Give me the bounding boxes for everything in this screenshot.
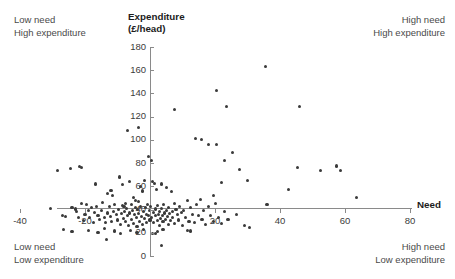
data-point (225, 105, 228, 108)
data-point (80, 202, 83, 205)
data-point (160, 207, 163, 210)
data-point (69, 167, 72, 170)
data-point (223, 210, 226, 213)
data-point (103, 227, 106, 230)
data-point (147, 155, 150, 158)
y-axis-tick (150, 117, 154, 118)
data-point (243, 224, 246, 227)
data-point (95, 205, 98, 208)
data-point (126, 214, 129, 217)
x-axis-tick (345, 209, 346, 213)
x-axis-tick-label: 20 (200, 215, 230, 226)
data-point (265, 203, 268, 206)
data-point (167, 206, 170, 209)
data-point (191, 213, 194, 216)
data-point (155, 188, 158, 191)
y-axis-tick (150, 163, 154, 164)
y-axis-tick-label: 120 (120, 110, 146, 121)
data-point (207, 205, 210, 208)
data-point (150, 159, 153, 162)
x-axis-tick (215, 209, 216, 213)
y-axis-tick (150, 47, 154, 48)
data-point (109, 215, 112, 218)
data-point (167, 223, 170, 226)
data-point (298, 105, 301, 108)
data-point (75, 210, 78, 213)
data-point (85, 203, 88, 206)
data-point (178, 205, 181, 208)
y-axis-tick-label: 60 (120, 180, 146, 191)
data-point (126, 129, 129, 132)
data-point (296, 166, 299, 169)
data-point (103, 216, 106, 219)
x-axis-tick-label: 80 (395, 215, 425, 226)
data-point (166, 215, 169, 218)
data-point (160, 182, 163, 185)
data-point (184, 216, 187, 219)
data-point (111, 194, 114, 197)
data-point (149, 205, 152, 208)
data-point (355, 196, 358, 199)
data-point (116, 218, 119, 221)
data-point (171, 210, 174, 213)
data-point (132, 222, 135, 225)
data-point (202, 209, 205, 212)
data-point (186, 199, 189, 202)
data-point (173, 222, 176, 225)
data-point (135, 216, 138, 219)
data-point (115, 213, 118, 216)
data-point (162, 203, 165, 206)
x-axis-tick-label: -40 (5, 215, 35, 226)
data-point (62, 228, 65, 231)
data-point (130, 218, 133, 221)
data-point (137, 126, 140, 129)
y-axis-tick (150, 140, 154, 141)
data-point (94, 182, 97, 185)
data-point (80, 166, 83, 169)
data-point (173, 202, 176, 205)
y-axis-tick-label: 40 (120, 203, 146, 214)
data-point (70, 230, 73, 233)
data-point (174, 208, 177, 211)
data-point (157, 213, 160, 216)
data-point (110, 220, 113, 223)
data-point (170, 190, 173, 193)
data-point (173, 108, 176, 111)
data-point (154, 207, 157, 210)
y-axis-tick (150, 256, 154, 257)
data-point (106, 192, 109, 195)
data-point (246, 179, 249, 182)
y-axis-tick-label: 180 (120, 41, 146, 52)
data-point (195, 203, 198, 206)
data-point (160, 244, 163, 247)
data-point (187, 220, 190, 223)
data-point (189, 229, 192, 232)
data-point (215, 89, 218, 92)
data-point (56, 169, 59, 172)
y-axis-tick (150, 186, 154, 187)
data-point (199, 198, 202, 201)
data-point (150, 216, 153, 219)
data-point (171, 216, 174, 219)
data-point (231, 151, 234, 154)
data-point (158, 210, 161, 213)
data-point (335, 164, 338, 167)
data-point (90, 206, 93, 209)
data-point (193, 221, 196, 224)
data-point (113, 203, 116, 206)
data-point (223, 159, 226, 162)
data-point (153, 182, 156, 185)
data-point (156, 219, 159, 222)
data-point (101, 201, 104, 204)
y-axis-tick (150, 70, 154, 71)
data-point (207, 143, 210, 146)
x-axis-tick (20, 209, 21, 213)
data-point (109, 189, 112, 192)
data-point (177, 218, 180, 221)
data-point (165, 186, 168, 189)
data-point (200, 138, 203, 141)
data-point (113, 229, 116, 232)
data-point (235, 213, 238, 216)
data-point (156, 204, 159, 207)
x-axis-tick-label: 60 (330, 215, 360, 226)
